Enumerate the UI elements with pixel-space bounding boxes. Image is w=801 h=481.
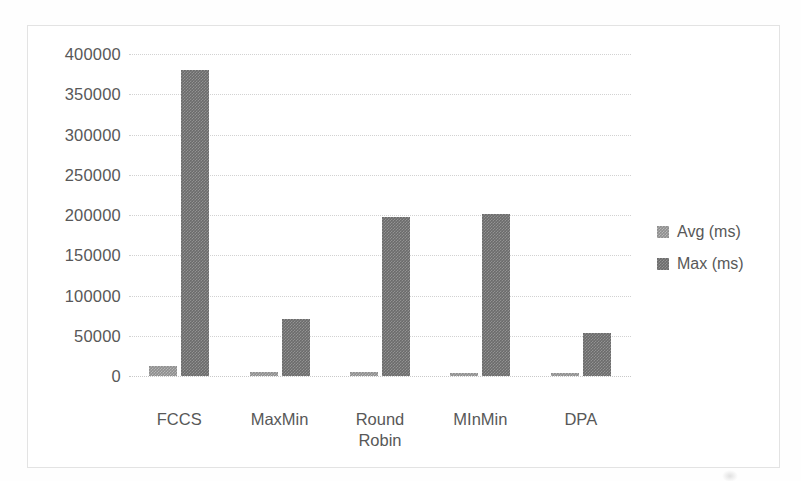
bar-group xyxy=(229,54,329,376)
legend-item[interactable]: Max (ms) xyxy=(657,248,777,280)
gridline xyxy=(129,376,631,377)
legend-label: Avg (ms) xyxy=(677,223,741,241)
y-axis: 4000003500003000002500002000001500001000… xyxy=(28,54,121,376)
chart-screenshot: 4000003500003000002500002000001500001000… xyxy=(0,0,801,481)
bar-group xyxy=(430,54,530,376)
legend-item[interactable]: Avg (ms) xyxy=(657,216,777,248)
bar-avg xyxy=(350,372,378,376)
bar-max xyxy=(181,70,209,376)
scan-artifact xyxy=(722,470,738,481)
bar-max xyxy=(583,333,611,376)
y-tick-label: 150000 xyxy=(65,246,121,265)
bar-avg xyxy=(149,366,177,376)
x-tick-label: MInMin xyxy=(430,409,530,430)
y-tick-label: 350000 xyxy=(65,85,121,104)
y-tick-label: 300000 xyxy=(65,125,121,144)
bar-avg xyxy=(250,372,278,376)
y-tick-label: 250000 xyxy=(65,165,121,184)
chart-frame: 4000003500003000002500002000001500001000… xyxy=(27,25,780,468)
chart-legend: Avg (ms)Max (ms) xyxy=(657,216,777,280)
x-tick-label: FCCS xyxy=(129,409,229,430)
legend-swatch-max xyxy=(657,258,669,270)
bar-group xyxy=(129,54,229,376)
x-tick-label: DPA xyxy=(531,409,631,430)
plot-area xyxy=(129,54,631,376)
legend-swatch-avg xyxy=(657,226,669,238)
bar-max xyxy=(282,319,310,376)
y-tick-label: 200000 xyxy=(65,206,121,225)
y-tick-label: 100000 xyxy=(65,286,121,305)
x-axis: FCCSMaxMinRound RobinMInMinDPA xyxy=(129,409,631,469)
y-tick-label: 0 xyxy=(112,367,121,386)
bar-group xyxy=(330,54,430,376)
bar-group xyxy=(531,54,631,376)
bar-max xyxy=(382,217,410,376)
y-tick-label: 50000 xyxy=(74,326,121,345)
bar-max xyxy=(482,214,510,376)
legend-label: Max (ms) xyxy=(677,255,744,273)
x-tick-label: MaxMin xyxy=(229,409,329,430)
x-tick-label: Round Robin xyxy=(330,409,430,451)
y-tick-label: 400000 xyxy=(65,45,121,64)
bar-avg xyxy=(551,373,579,376)
bar-avg xyxy=(450,373,478,376)
